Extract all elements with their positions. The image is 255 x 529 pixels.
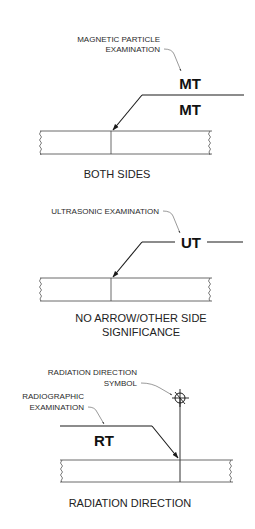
callout-mt-line2: EXAMINATION xyxy=(105,45,160,54)
caption-both-sides: BOTH SIDES xyxy=(84,168,151,180)
leader-line-rt xyxy=(88,407,104,424)
arrow-side-mt: MT xyxy=(179,75,201,92)
rt-symbol: RT xyxy=(94,432,114,449)
ut-symbol: UT xyxy=(181,234,201,251)
plate xyxy=(60,460,233,482)
panel-no-arrow-other-side: ULTRASONIC EXAMINATION UT NO ARROW/OTHER… xyxy=(40,207,244,338)
arrow-line xyxy=(113,242,142,277)
caption-line1: NO ARROW/OTHER SIDE xyxy=(75,312,206,324)
callout-symbol-line2: SYMBOL xyxy=(104,379,138,388)
nde-symbol-diagram: MAGNETIC PARTICLE EXAMINATION MT MT BOTH… xyxy=(0,0,255,529)
radiation-direction-symbol-icon xyxy=(172,389,189,407)
arrow-line xyxy=(152,426,178,458)
panel-both-sides: MAGNETIC PARTICLE EXAMINATION MT MT BOTH… xyxy=(40,35,245,180)
caption-line2: SIGNIFICANCE xyxy=(102,326,180,338)
plate xyxy=(40,278,213,301)
panel-radiation-direction: RADIATION DIRECTION SYMBOL RADIOGRAPHIC … xyxy=(22,368,233,509)
leader-line xyxy=(164,49,181,71)
callout-mt-line1: MAGNETIC PARTICLE xyxy=(77,35,160,44)
plate xyxy=(40,131,213,155)
other-side-mt: MT xyxy=(179,101,201,118)
callout-symbol-line1: RADIATION DIRECTION xyxy=(48,368,137,377)
leader-line xyxy=(163,211,180,233)
callout-ut: ULTRASONIC EXAMINATION xyxy=(51,207,159,216)
callout-rt-line1: RADIOGRAPHIC xyxy=(22,392,84,401)
arrow-line xyxy=(113,95,142,130)
leader-line-symbol xyxy=(141,383,172,395)
caption-radiation-direction: RADIATION DIRECTION xyxy=(69,497,192,509)
callout-rt-line2: EXAMINATION xyxy=(29,403,84,412)
